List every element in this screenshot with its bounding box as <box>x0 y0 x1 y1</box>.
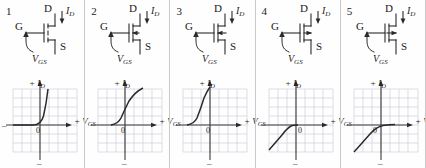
axes-3 <box>176 82 240 160</box>
axes-4 <box>262 82 326 160</box>
gate-source-voltage-label-2: VGS <box>117 53 132 66</box>
grid-1 <box>13 89 77 152</box>
mosfet-symbol-5: D G S ID VGS <box>341 0 426 78</box>
mosfet-symbol-4: D G S ID VGS <box>256 0 341 78</box>
id-arrow-4 <box>315 11 320 24</box>
channel-arrow-right-5 <box>391 31 396 36</box>
transfer-curve-graph-3: + ID + VGS 0 – <box>170 76 255 168</box>
x-axis-arrow-2 <box>151 123 157 127</box>
origin-label-2: 0 <box>121 126 125 135</box>
minus-y-label-1: – <box>36 158 42 168</box>
panel-2: 2 D <box>85 0 170 168</box>
channel-arrow-right-4 <box>306 31 311 36</box>
source-label-5: S <box>401 40 407 52</box>
y-axis-label-5: + ID <box>370 78 386 89</box>
drain-current-label-4: ID <box>321 5 330 18</box>
origin-label-5: 0 <box>373 126 377 135</box>
gate-source-voltage-label-5: VGS <box>373 53 388 66</box>
source-label-2: S <box>145 40 151 52</box>
minus-y-label-5: – <box>377 158 383 168</box>
vgs-arrow-head-3 <box>194 31 200 37</box>
mosfet-symbol-3: D G S ID VGS <box>170 0 255 78</box>
y-axis-label-2: + ID <box>114 78 130 89</box>
x-axis-arrow-3 <box>236 123 242 127</box>
drain-label-2: D <box>129 2 137 14</box>
source-label-3: S <box>230 40 236 52</box>
axes-1 <box>6 82 70 160</box>
y-axis-label-3: + ID <box>199 78 215 89</box>
drain-label-1: D <box>44 2 52 14</box>
vgs-arrow-head-1 <box>23 31 29 37</box>
gate-label-3: G <box>185 20 193 32</box>
minus-y-label-2: – <box>121 158 127 168</box>
gate-label-2: G <box>100 20 108 32</box>
gate-source-voltage-label-4: VGS <box>288 53 303 66</box>
minus-y-label-4: – <box>292 158 298 168</box>
transfer-curve-graph-2: + ID + VGS 0 – <box>85 76 170 168</box>
panel-1: 1 <box>0 0 85 168</box>
x-axis-arrow-4 <box>322 123 328 127</box>
y-axis-label-1: + ID <box>29 78 45 89</box>
minus-x-label-1: – <box>1 120 7 130</box>
panel-3: 3 D <box>170 0 255 168</box>
id-arrow-3 <box>230 11 235 24</box>
figure-root: 1 <box>0 0 426 168</box>
mosfet-symbol-1: D G S ID VGS <box>0 0 85 78</box>
gate-label-4: G <box>271 20 279 32</box>
curve-4 <box>269 125 298 150</box>
id-arrow-1 <box>60 11 65 24</box>
grid-3 <box>183 89 247 152</box>
panel-4: 4 D <box>256 0 341 168</box>
drain-label-3: D <box>214 2 222 14</box>
gate-label-5: G <box>356 20 364 32</box>
x-axis-arrow-5 <box>407 123 413 127</box>
transfer-curve-graph-5: + ID + VGS 0 – <box>341 76 426 168</box>
origin-label-3: 0 <box>206 126 210 135</box>
drain-current-label-2: ID <box>150 5 159 18</box>
drain-current-label-1: ID <box>65 5 74 18</box>
id-arrow-5 <box>400 11 405 24</box>
vgs-arrow-head-2 <box>108 31 114 37</box>
grid-4 <box>269 89 333 152</box>
drain-current-label-5: ID <box>406 5 415 18</box>
panel-5: 5 D <box>341 0 426 168</box>
mosfet-symbol-2: D G S ID VGS <box>85 0 170 78</box>
drain-label-5: D <box>385 2 393 14</box>
origin-label-4: 0 <box>298 126 302 135</box>
grid-5 <box>354 89 418 152</box>
id-arrow-2 <box>145 11 150 24</box>
transfer-curve-graph-4: + ID + VGS 0 – <box>256 76 341 168</box>
x-axis-arrow-1 <box>66 123 72 127</box>
minus-y-label-3: – <box>206 158 212 168</box>
vgs-arrow-head-4 <box>279 31 285 37</box>
gate-source-voltage-label-3: VGS <box>202 53 217 66</box>
axes-2 <box>91 82 155 160</box>
gate-source-voltage-label-1: VGS <box>32 53 47 66</box>
transfer-curve-graph-1: + ID + VGS 0 – – <box>0 76 85 168</box>
y-axis-label-4: + ID <box>285 78 301 89</box>
drain-label-4: D <box>300 2 308 14</box>
source-label-4: S <box>316 40 322 52</box>
drain-current-label-3: ID <box>235 5 244 18</box>
source-label-1: S <box>60 40 66 52</box>
origin-label-1: 0 <box>36 126 40 135</box>
gate-label-1: G <box>15 20 23 32</box>
curve-3 <box>187 87 210 125</box>
vgs-arrow-head-5 <box>364 31 370 37</box>
